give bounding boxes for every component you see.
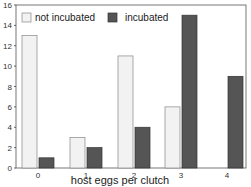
- y-tick-label: 6: [8, 103, 13, 112]
- y-tick-label: 2: [8, 144, 13, 153]
- bar-incubated: [39, 158, 54, 168]
- bar-incubated: [135, 127, 150, 168]
- x-tick-label: 3: [179, 171, 184, 180]
- y-axis: 0246810121416: [3, 1, 16, 173]
- y-tick-label: 14: [3, 21, 12, 30]
- legend-label-incubated: incubated: [125, 12, 168, 23]
- bars: [22, 15, 243, 168]
- bar-not-incubated: [70, 137, 85, 168]
- bar-not-incubated: [22, 36, 37, 168]
- bar-not-incubated: [118, 56, 133, 168]
- y-tick-label: 8: [8, 83, 13, 92]
- x-tick-label: 4: [225, 171, 230, 180]
- legend-swatch-not-incubated: [22, 13, 31, 22]
- bar-incubated: [228, 76, 243, 168]
- y-tick-label: 4: [8, 123, 13, 132]
- y-tick-label: 16: [3, 1, 12, 10]
- x-axis-label: host eggs per clutch: [71, 174, 169, 186]
- bar-incubated: [87, 148, 102, 168]
- legend-label-not-incubated: not incubated: [35, 12, 95, 23]
- y-tick-label: 10: [3, 62, 12, 71]
- legend-swatch-incubated: [108, 13, 117, 22]
- bar-incubated: [182, 15, 197, 168]
- y-tick-label: 12: [3, 42, 12, 51]
- y-tick-label: 0: [8, 164, 13, 173]
- bar-chart: 0246810121416 01234 not incubatedincubat…: [0, 0, 251, 187]
- bar-not-incubated: [165, 107, 180, 168]
- legend: not incubatedincubated: [22, 12, 168, 23]
- x-tick-label: 0: [36, 171, 41, 180]
